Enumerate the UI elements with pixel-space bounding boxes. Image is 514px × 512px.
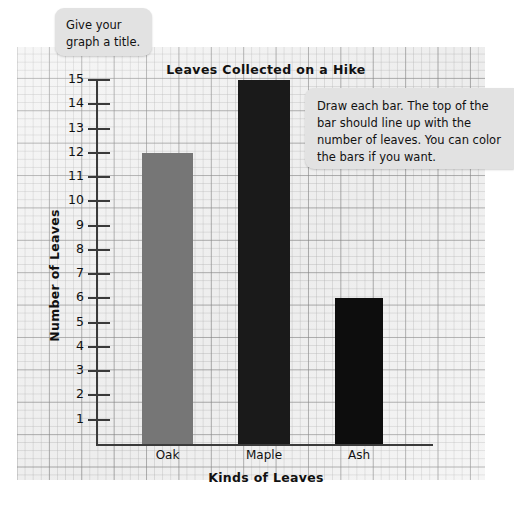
callout-title-hint-text: Give your graph a title. [66, 18, 140, 49]
callout-bars-hint: Draw each bar. The top of the bar should… [305, 88, 514, 169]
worksheet-page: Leaves Collected on a Hike Number of Lea… [0, 0, 514, 512]
callout-title-hint: Give your graph a title. [55, 8, 152, 56]
callout-bars-hint-text: Draw each bar. The top of the bar should… [317, 99, 501, 164]
